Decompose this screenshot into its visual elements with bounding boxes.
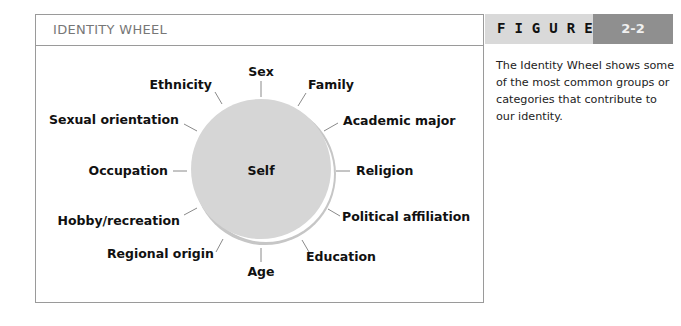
spoke-label: Religion <box>356 163 413 178</box>
spoke-label: Occupation <box>89 163 168 178</box>
figure-caption: The Identity Wheel shows some of the mos… <box>496 57 676 125</box>
spoke-label: Education <box>306 249 376 264</box>
spoke-label: Family <box>308 77 354 92</box>
figure-label-text: FIGURE <box>497 20 602 36</box>
figure-number-text: 2-2 <box>593 21 673 36</box>
identity-wheel: Self Sex Family Academic major Religion … <box>0 0 681 326</box>
spoke-label: Political affiliation <box>342 209 470 224</box>
center-label-self: Self <box>247 163 275 178</box>
spoke-label: Age <box>247 264 274 279</box>
spoke-label: Regional origin <box>107 246 214 261</box>
spoke-label: Hobby/recreation <box>57 213 180 228</box>
spoke-label: Sex <box>248 64 274 79</box>
spoke-label: Ethnicity <box>150 77 212 92</box>
spoke-label: Academic major <box>343 113 456 128</box>
spoke-label: Sexual orientation <box>49 112 179 127</box>
figure-number: 2-2 <box>593 14 673 44</box>
figure-label: FIGURE <box>485 14 593 44</box>
